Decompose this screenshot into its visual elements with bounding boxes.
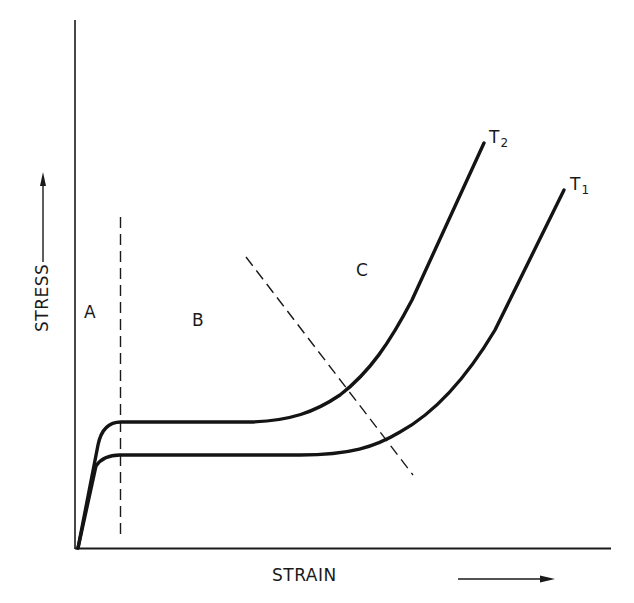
- boundary-b-c-dashed: [246, 257, 413, 475]
- region-label-a: A: [84, 304, 96, 321]
- arrow-up-icon: [40, 172, 46, 186]
- region-label-c: C: [356, 262, 368, 279]
- curve-label-t1: T1: [570, 176, 589, 193]
- arrow-right-icon: [540, 576, 555, 583]
- curve-label-t2: T2: [489, 129, 508, 146]
- curve-label-t1-main: T: [570, 174, 580, 194]
- x-axis-label: STRAIN: [272, 567, 337, 584]
- y-axis-label: STRESS: [34, 264, 51, 332]
- curve-t1: [78, 190, 564, 548]
- curve-label-t2-main: T: [489, 127, 499, 147]
- curve-label-t2-sub: 2: [500, 136, 508, 150]
- curve-t2: [78, 143, 484, 548]
- curve-label-t1-sub: 1: [581, 183, 589, 197]
- region-label-b: B: [192, 312, 204, 329]
